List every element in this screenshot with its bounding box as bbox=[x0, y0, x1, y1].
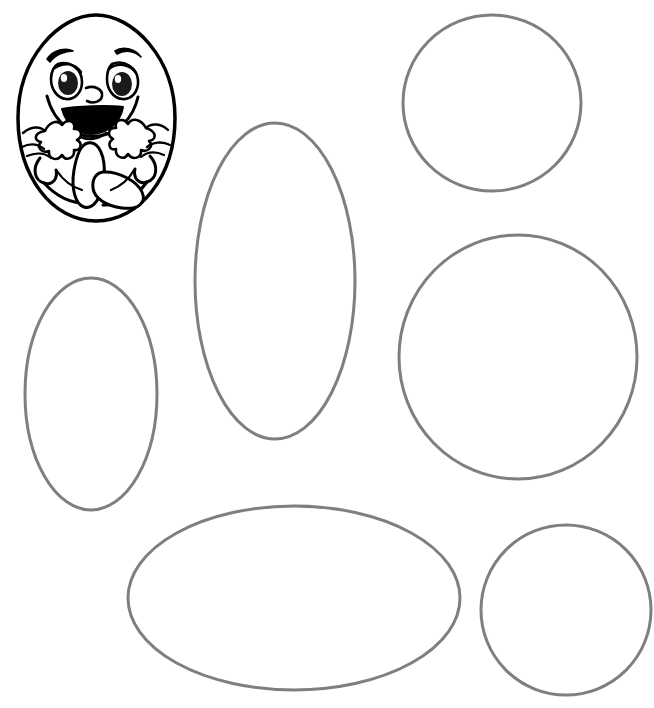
right-eye-pupil bbox=[112, 72, 132, 96]
circle-top-right[interactable] bbox=[403, 15, 581, 191]
left-eye-pupil bbox=[58, 71, 78, 95]
coloring-page: g.com bbox=[0, 0, 654, 708]
coloring-canvas bbox=[0, 0, 654, 708]
ellipse-wide-bottom[interactable] bbox=[128, 506, 460, 690]
right-eye-highlight bbox=[115, 75, 121, 83]
cartoon-egg-character bbox=[18, 15, 175, 221]
left-eye-highlight bbox=[61, 74, 67, 82]
ellipse-tall-left[interactable] bbox=[25, 278, 157, 510]
circle-bottom-right[interactable] bbox=[481, 525, 651, 695]
ellipse-tall-center[interactable] bbox=[195, 123, 355, 439]
circle-middle-right[interactable] bbox=[399, 235, 637, 479]
